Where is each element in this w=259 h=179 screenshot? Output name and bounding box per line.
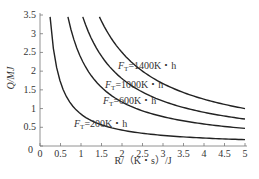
x-tick-label: 0.5: [54, 148, 67, 159]
x-tick-label: 5: [243, 148, 248, 159]
x-tick-label: 0: [38, 148, 43, 159]
y-tick-label: 1.5: [24, 84, 37, 95]
x-tick-label: 3.5: [177, 148, 190, 159]
y-tick-label: 2: [31, 65, 36, 76]
x-tick-label: 4: [202, 148, 207, 159]
x-axis-label: R/（K・s）/J: [114, 155, 171, 166]
y-tick-label: 3: [31, 28, 36, 39]
series-label: FT=1000K・h: [104, 79, 163, 92]
y-tick-label: 2.5: [24, 46, 37, 57]
series-label: FT=1400K・h: [117, 60, 176, 73]
chart: 00.511.522.533.544.5500.511.522.533.5 FT…: [0, 0, 259, 179]
x-tick-label: 4.5: [218, 148, 231, 159]
y-tick-label: 0.5: [24, 121, 37, 132]
curve-1: [68, 17, 245, 129]
y-tick-label: 3.5: [24, 9, 37, 20]
x-tick-label: 1.5: [95, 148, 108, 159]
y-tick-label: 0: [28, 144, 33, 155]
y-axis-label: Q/MJ: [5, 66, 16, 89]
y-tick-label: 1: [31, 103, 36, 114]
x-tick-label: 1: [79, 148, 84, 159]
